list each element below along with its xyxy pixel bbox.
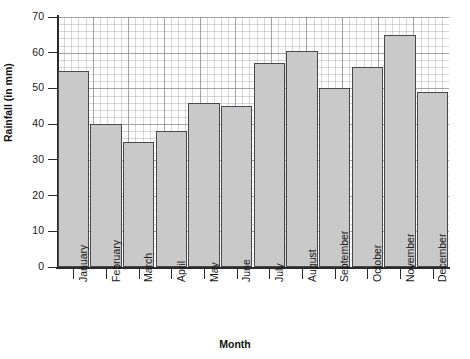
x-axis-label-september: September — [339, 231, 350, 282]
bar-january — [58, 71, 89, 267]
y-axis-tick — [48, 159, 57, 160]
x-axis-title: Month — [0, 338, 470, 350]
bars-layer — [57, 17, 449, 267]
x-axis-label-november: November — [405, 234, 416, 282]
x-axis-tick — [433, 269, 434, 279]
y-axis-tick-label: 10 — [32, 225, 44, 235]
bar-may — [188, 103, 219, 267]
bar-august — [286, 51, 317, 267]
y-axis-tick — [48, 88, 57, 89]
bar-march — [123, 142, 154, 267]
y-axis-tick-label: 20 — [32, 190, 44, 200]
x-axis-tick — [73, 269, 74, 279]
y-axis-tick — [48, 17, 57, 18]
x-axis-label-august: August — [307, 249, 318, 282]
y-axis-tick-label: 40 — [32, 118, 44, 128]
y-axis-tick-label: 30 — [32, 154, 44, 164]
x-axis-label-february: February — [111, 240, 122, 282]
x-axis-label-december: December — [437, 234, 448, 282]
x-axis-tick — [335, 269, 336, 279]
x-axis-tick — [171, 269, 172, 279]
y-axis-title: Rainfall (in mm) — [2, 63, 14, 142]
bar-april — [156, 131, 187, 267]
y-axis-tick-label: 0 — [38, 261, 44, 271]
bar-june — [221, 106, 252, 267]
y-axis-tick-label: 70 — [32, 11, 44, 21]
x-axis-tick — [204, 269, 205, 279]
bar-november — [384, 35, 415, 267]
x-axis-tick — [400, 269, 401, 279]
x-axis-label-january: January — [78, 245, 89, 282]
rainfall-bar-chart: 010203040506070 JanuaryFebruaryMarchApri… — [0, 0, 470, 359]
x-axis-tick — [237, 269, 238, 279]
x-axis-label-may: May — [209, 262, 220, 282]
bar-july — [254, 63, 285, 267]
x-axis-tick — [367, 269, 368, 279]
x-axis-label-april: April — [176, 261, 187, 282]
x-axis-label-july: July — [274, 263, 285, 282]
x-axis-label-june: June — [241, 259, 252, 282]
y-axis-tick — [48, 231, 57, 232]
x-axis-tick — [302, 269, 303, 279]
y-axis-tick-label: 60 — [32, 47, 44, 57]
y-axis-tick — [48, 52, 57, 53]
y-axis-tick — [48, 124, 57, 125]
x-axis-tick — [139, 269, 140, 279]
x-axis-label-march: March — [143, 253, 154, 282]
x-axis-tick — [106, 269, 107, 279]
x-axis-tick — [269, 269, 270, 279]
y-axis-tick-label: 50 — [32, 82, 44, 92]
y-axis-tick — [48, 267, 57, 268]
x-axis-label-october: October — [372, 245, 383, 282]
y-axis-tick — [48, 195, 57, 196]
bar-october — [352, 67, 383, 267]
